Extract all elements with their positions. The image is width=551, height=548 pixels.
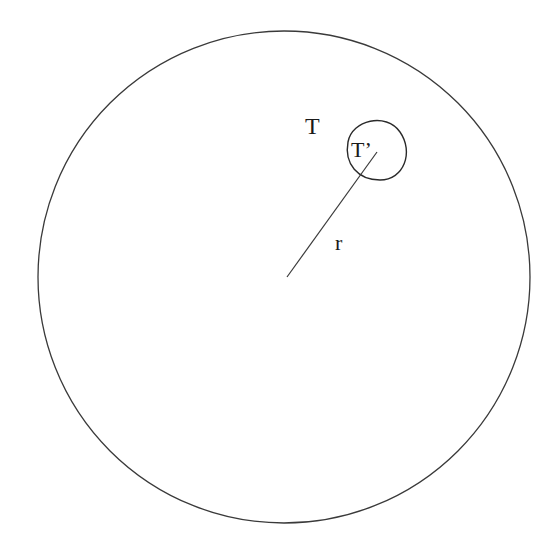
label-r: r <box>335 230 343 255</box>
outer-circle-T <box>38 31 530 523</box>
diagram-canvas: T T’ r <box>0 0 551 548</box>
label-T: T <box>305 113 320 139</box>
label-T-prime: T’ <box>351 137 372 162</box>
radius-line-r <box>287 152 377 277</box>
